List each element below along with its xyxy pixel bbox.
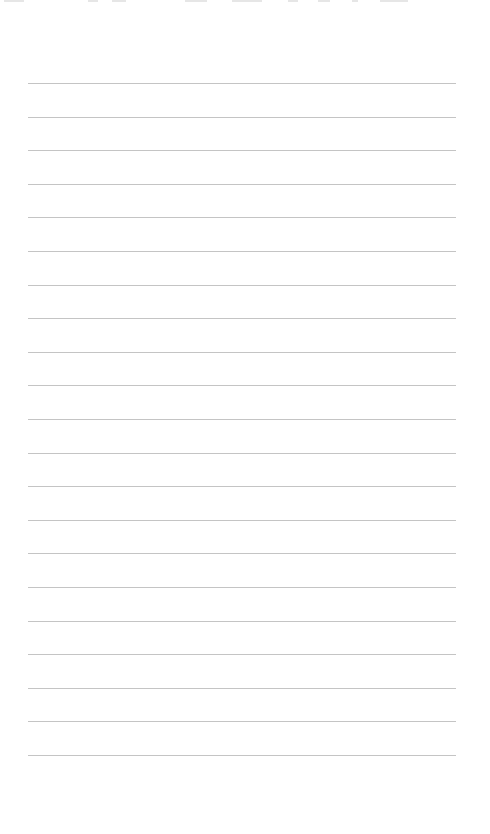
ruled-line — [28, 520, 456, 521]
remnant-mark — [380, 0, 408, 2]
remnant-mark — [185, 0, 207, 2]
remnant-mark — [4, 0, 24, 2]
remnant-mark — [352, 0, 358, 2]
ruled-line — [28, 83, 456, 84]
ruled-line — [28, 721, 456, 722]
ruled-line — [28, 688, 456, 689]
cropped-text-remnant — [0, 0, 490, 6]
ruled-line — [28, 453, 456, 454]
ruled-line — [28, 587, 456, 588]
ruled-line — [28, 184, 456, 185]
ruled-line — [28, 285, 456, 286]
remnant-mark — [318, 0, 330, 2]
remnant-mark — [112, 0, 126, 2]
ruled-line — [28, 621, 456, 622]
remnant-mark — [288, 0, 298, 2]
ruled-line — [28, 117, 456, 118]
ruled-line — [28, 251, 456, 252]
ruled-line — [28, 217, 456, 218]
ruled-line — [28, 352, 456, 353]
remnant-mark — [88, 0, 98, 2]
ruled-line — [28, 385, 456, 386]
ruled-line — [28, 654, 456, 655]
ruled-line — [28, 553, 456, 554]
ruled-line — [28, 150, 456, 151]
ruled-line — [28, 486, 456, 487]
ruled-line — [28, 318, 456, 319]
ruled-lines — [28, 83, 456, 788]
ruled-line — [28, 755, 456, 756]
ruled-line — [28, 419, 456, 420]
remnant-mark — [232, 0, 262, 2]
